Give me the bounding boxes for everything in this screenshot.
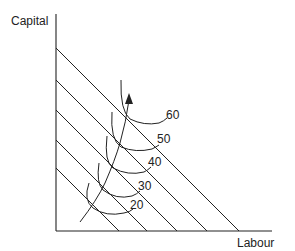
isocost-lines — [56, 48, 239, 231]
y-axis-label: Capital — [11, 15, 48, 27]
expansion-path — [80, 100, 129, 222]
isoquant-diagram — [0, 0, 295, 251]
isoquant-30 — [98, 163, 140, 197]
isoquant-label-50: 50 — [157, 133, 170, 145]
isoquant-label-20: 20 — [130, 199, 143, 211]
isoquant-50 — [112, 112, 159, 151]
x-axis-label: Labour — [237, 237, 274, 249]
isoquant-label-60: 60 — [166, 109, 179, 121]
arrow-up-icon — [125, 93, 133, 104]
isoquant-label-40: 40 — [148, 156, 161, 168]
isoquant-label-30: 30 — [138, 180, 151, 192]
